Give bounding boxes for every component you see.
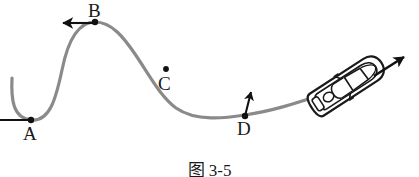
point-label-b: B	[88, 1, 101, 20]
point-label-c: C	[158, 74, 171, 93]
physics-figure: A B C D 图 3-5	[0, 0, 419, 177]
track-group	[12, 22, 330, 120]
roller-coaster-track	[12, 22, 330, 120]
point-marker-c	[163, 66, 169, 72]
acceleration-arrow-d-group	[245, 92, 251, 116]
acceleration-arrow-d	[245, 92, 251, 116]
figure-caption: 图 3-5	[0, 162, 419, 177]
figure-canvas	[0, 0, 419, 177]
point-label-a: A	[23, 124, 37, 143]
car	[304, 51, 389, 120]
point-label-d: D	[237, 119, 251, 138]
